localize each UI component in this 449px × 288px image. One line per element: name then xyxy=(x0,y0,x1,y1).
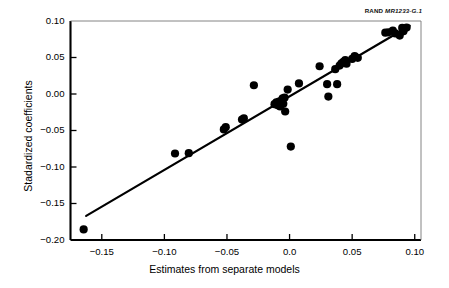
data-point xyxy=(80,225,88,233)
data-point xyxy=(316,62,324,70)
y-axis-title: Stadardized coefficients xyxy=(22,56,34,216)
data-point xyxy=(250,81,258,89)
data-point xyxy=(403,23,411,31)
data-point xyxy=(295,79,303,87)
scatter-plot xyxy=(0,0,449,288)
data-point xyxy=(281,107,289,115)
y-tick-label: −0.20 xyxy=(25,234,65,245)
data-point xyxy=(333,80,341,88)
source-tag: RAND MR1233-G.1 xyxy=(365,7,422,14)
data-point xyxy=(171,149,179,157)
data-point xyxy=(323,80,331,88)
source-tag-prefix: RAND xyxy=(365,7,383,14)
x-tick-label: −0.15 xyxy=(82,246,122,257)
data-point xyxy=(240,114,248,122)
x-tick-label: −0.10 xyxy=(144,246,184,257)
x-tick-label: −0.05 xyxy=(207,246,247,257)
x-axis-title: Estimates from separate models xyxy=(0,263,449,275)
data-point xyxy=(324,92,332,100)
data-point xyxy=(284,86,292,94)
data-point xyxy=(222,123,230,131)
data-point xyxy=(354,54,362,62)
regression-line xyxy=(86,26,410,216)
axis-frame xyxy=(71,21,422,240)
source-tag-id: MR1233-G.1 xyxy=(385,7,422,14)
data-point xyxy=(185,149,193,157)
tick-marks xyxy=(71,58,415,241)
x-tick-label: 0.05 xyxy=(332,246,372,257)
x-tick-label: 0.0 xyxy=(270,246,310,257)
y-tick-label: 0.10 xyxy=(25,15,65,26)
data-point xyxy=(287,142,295,150)
figure-container: RAND MR1233-G.1 0.100.050.00−0.05−0.10−0… xyxy=(0,0,449,288)
x-tick-label: 0.10 xyxy=(395,246,435,257)
data-point xyxy=(280,94,288,102)
